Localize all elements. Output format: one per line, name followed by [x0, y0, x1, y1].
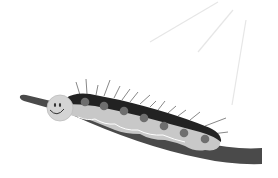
left-eye-icon: [54, 103, 56, 107]
right-eye-icon: [59, 103, 61, 107]
caterpillar-head: [47, 95, 73, 121]
sun-rays: [150, 2, 246, 105]
caterpillar-illustration: [0, 0, 278, 178]
